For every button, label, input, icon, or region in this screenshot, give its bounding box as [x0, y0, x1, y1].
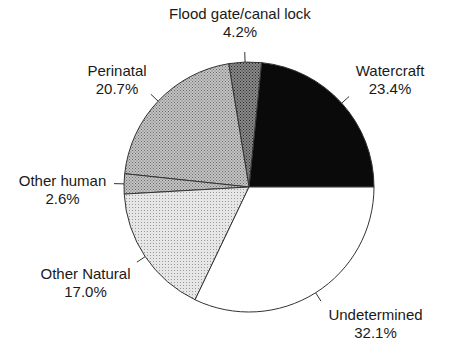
label-undetermined-name: Undetermined: [318, 306, 433, 324]
label-flood-gate-pct: 4.2%: [150, 23, 330, 41]
label-other-human-pct: 2.6%: [5, 190, 120, 208]
label-flood-gate-name: Flood gate/canal lock: [150, 5, 330, 23]
label-undetermined-pct: 32.1%: [318, 324, 433, 342]
label-perinatal-pct: 20.7%: [72, 80, 162, 98]
label-undetermined: Undetermined 32.1%: [318, 306, 433, 342]
label-watercraft: Watercraft 23.4%: [340, 62, 440, 98]
label-watercraft-name: Watercraft: [340, 62, 440, 80]
label-watercraft-pct: 23.4%: [340, 80, 440, 98]
label-other-natural-name: Other Natural: [28, 265, 143, 283]
label-other-natural-pct: 17.0%: [28, 283, 143, 301]
label-perinatal: Perinatal 20.7%: [72, 62, 162, 98]
label-other-human-name: Other human: [5, 172, 120, 190]
label-other-natural: Other Natural 17.0%: [28, 265, 143, 301]
leader-line: [316, 293, 321, 301]
label-flood-gate: Flood gate/canal lock 4.2%: [150, 5, 330, 41]
leader-line: [137, 257, 145, 263]
label-other-human: Other human 2.6%: [5, 172, 120, 208]
label-perinatal-name: Perinatal: [72, 62, 162, 80]
